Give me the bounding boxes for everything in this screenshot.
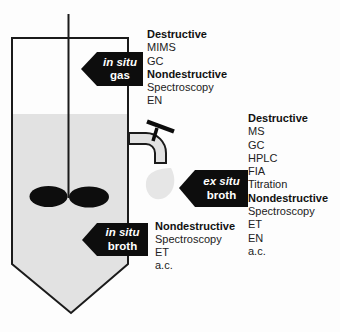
method-item: Destructive [147,28,227,41]
impeller-right-blade [69,187,109,208]
method-item: HPLC [248,152,328,165]
method-item: Nondestructive [147,68,227,81]
valve-handle-icon [147,122,174,132]
method-item: Nondestructive [155,220,235,233]
bioreactor-monitoring-diagram: in situ gas ex situ broth in situ broth … [0,0,340,332]
gas-method-list: DestructiveMIMSGCNondestructiveSpectrosc… [147,28,227,108]
method-item: Destructive [248,112,328,125]
method-item: Titration [248,178,328,191]
ex-situ-broth-arrow-shape [179,170,248,207]
sample-droplet [146,168,174,199]
method-item: MIMS [147,41,227,54]
ex-situ-broth-method-list: DestructiveMSGCHPLCFIATitrationNondestru… [248,112,328,258]
sampling-valve-body [129,133,166,163]
broth-liquid [13,114,127,312]
method-item: Nondestructive [248,192,328,205]
method-item: Spectroscopy [147,81,227,94]
in-situ-gas-arrow-shape [81,52,143,86]
method-item: MS [248,125,328,138]
method-item: ET [248,218,328,231]
method-item: GC [147,55,227,68]
impeller-left-blade [30,186,68,207]
method-item: EN [147,94,227,107]
in-situ-broth-method-list: NondestructiveSpectroscopyETa.c. [155,220,235,272]
method-item: Spectroscopy [155,233,235,246]
method-item: FIA [248,165,328,178]
method-item: GC [248,139,328,152]
method-item: a.c. [248,245,328,258]
method-item: a.c. [155,259,235,272]
method-item: Spectroscopy [248,205,328,218]
method-item: ET [155,246,235,259]
method-item: EN [248,232,328,245]
